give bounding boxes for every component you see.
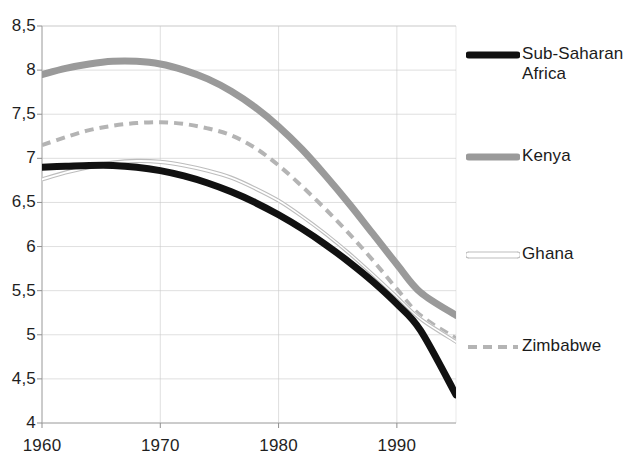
legend-swatch-thick-black-line: [466, 45, 520, 65]
chart-legend: Sub-Saharan AfricaKenyaGhanaZimbabwe: [466, 0, 644, 463]
x-tick-label: 1980: [259, 437, 298, 454]
fertility-line-chart: 44,555,566,577,588,5 1960197019801990 Su…: [0, 0, 644, 463]
legend-item-kenya[interactable]: Kenya: [466, 146, 644, 167]
legend-label: Zimbabwe: [522, 336, 601, 356]
legend-item-zimbabwe[interactable]: Zimbabwe: [466, 336, 644, 357]
legend-swatch-thin-outline-line: [466, 245, 520, 265]
legend-swatch-thick-gray-line: [466, 147, 520, 167]
legend-item-ghana[interactable]: Ghana: [466, 244, 644, 265]
x-tick-label: 1970: [141, 437, 180, 454]
legend-label: Ghana: [522, 244, 574, 264]
legend-label: Kenya: [522, 146, 571, 166]
x-tick-label: 1960: [23, 437, 62, 454]
x-tick-label: 1990: [378, 437, 417, 454]
legend-label: Sub-Saharan Africa: [522, 44, 623, 84]
legend-swatch-gray-dashed-line: [466, 337, 520, 357]
legend-item-sub-saharan-africa[interactable]: Sub-Saharan Africa: [466, 44, 644, 84]
